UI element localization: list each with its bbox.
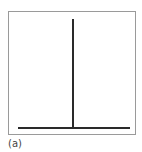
- figure-caption: (a): [8, 138, 22, 150]
- horizontal-line: [18, 127, 130, 129]
- vertical-line: [72, 19, 74, 128]
